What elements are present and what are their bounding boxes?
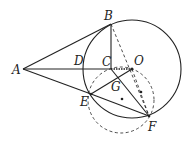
segment-ab xyxy=(23,24,111,69)
center-dot xyxy=(121,98,124,101)
segment-ae xyxy=(23,69,91,94)
label-a: A xyxy=(11,63,21,77)
label-o: O xyxy=(134,54,144,68)
point-f xyxy=(148,115,151,118)
circle-dashed xyxy=(88,67,154,133)
label-d: D xyxy=(73,54,84,68)
label-e: E xyxy=(79,95,89,109)
point-e xyxy=(90,93,93,96)
geometry-diagram: A B D C O G E F xyxy=(0,0,190,141)
label-b: B xyxy=(103,9,113,23)
center-dot-2 xyxy=(140,91,143,94)
label-c: C xyxy=(102,55,111,69)
label-f: F xyxy=(147,120,157,134)
label-g: G xyxy=(111,80,121,94)
